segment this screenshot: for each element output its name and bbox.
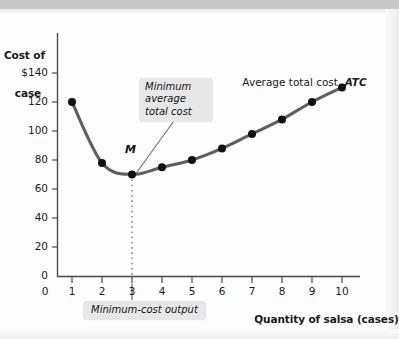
data-point bbox=[278, 115, 286, 123]
x-tick-label-6: 6 bbox=[207, 285, 237, 297]
series-label-atc: Average total cost, ATC bbox=[229, 64, 367, 100]
y-tick-label-20: 20 bbox=[0, 240, 48, 252]
x-tick-label-10: 10 bbox=[327, 285, 357, 297]
callout-min-atc-line1: Minimum bbox=[145, 81, 207, 93]
y-tick-label-60: 60 bbox=[0, 182, 48, 194]
data-point bbox=[248, 130, 256, 138]
callout-min-atc-line3: total cost bbox=[145, 106, 207, 118]
x-tick-label-0: 0 bbox=[30, 285, 60, 297]
series-label-prefix: Average total cost, bbox=[242, 76, 344, 88]
y-tick-label-120: 120 bbox=[0, 95, 48, 107]
x-axis-ticks bbox=[72, 277, 342, 283]
x-tick-label-1: 1 bbox=[57, 285, 87, 297]
callout-min-atc-line2: average bbox=[145, 93, 207, 105]
data-point bbox=[218, 144, 226, 152]
x-tick-label-7: 7 bbox=[237, 285, 267, 297]
y-axis-title-line1: Cost of bbox=[4, 49, 54, 62]
y-tick-label-80: 80 bbox=[0, 153, 48, 165]
data-point bbox=[158, 163, 166, 171]
y-tick-label-100: 100 bbox=[0, 124, 48, 136]
data-point bbox=[98, 159, 106, 167]
x-tick-label-2: 2 bbox=[87, 285, 117, 297]
minimum-point-label-m: M bbox=[125, 143, 136, 156]
y-tick-label-0: 0 bbox=[0, 269, 48, 281]
data-point bbox=[68, 98, 76, 106]
series-label-symbol: ATC bbox=[345, 76, 367, 88]
callout-minimum-average-total-cost: Minimum average total cost bbox=[139, 78, 213, 122]
callout-min-output-text: Minimum-cost output bbox=[91, 304, 198, 315]
x-tick-label-3: 3 bbox=[117, 285, 147, 297]
x-tick-label-8: 8 bbox=[267, 285, 297, 297]
data-point bbox=[188, 156, 196, 164]
x-tick-label-9: 9 bbox=[297, 285, 327, 297]
x-axis-title: Quantity of salsa (cases) bbox=[240, 300, 399, 338]
y-tick-label-40: 40 bbox=[0, 211, 48, 223]
x-tick-label-5: 5 bbox=[177, 285, 207, 297]
y-tick-label-140: $140 bbox=[0, 66, 48, 78]
data-point bbox=[128, 171, 136, 179]
x-axis-title-text: Quantity of salsa (cases) bbox=[254, 313, 399, 325]
figure-container: Cost of case $140 120 100 80 60 40 20 0 … bbox=[0, 0, 399, 339]
callout-minimum-cost-output: Minimum-cost output bbox=[83, 301, 206, 320]
x-tick-label-4: 4 bbox=[147, 285, 177, 297]
